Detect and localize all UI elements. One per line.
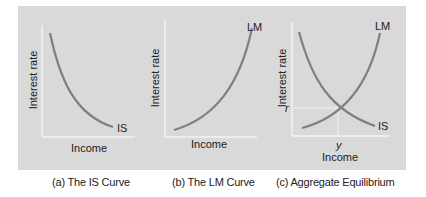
caption-c: (c) Aggregate Equilibrium bbox=[276, 176, 395, 188]
lm-curve bbox=[302, 33, 380, 128]
y-axis-label: Interest rate bbox=[27, 51, 39, 110]
x-axis-label: Income bbox=[71, 142, 107, 154]
x-axis-label: Income bbox=[191, 138, 227, 150]
islm-diagram: IS Income Interest rate LM Income Intere… bbox=[0, 0, 426, 197]
y-axis-label: Interest rate bbox=[149, 49, 161, 108]
caption-a: (a) The IS Curve bbox=[52, 176, 130, 188]
is-curve-label: IS bbox=[378, 120, 388, 132]
x-axis-label: Income bbox=[322, 151, 358, 163]
y-axis-label: Interest rate bbox=[276, 49, 288, 108]
panel-c-equilibrium: LM IS r y Income Interest rate bbox=[276, 20, 390, 163]
lm-curve-label: LM bbox=[375, 20, 390, 32]
is-curve bbox=[50, 33, 113, 127]
panel-b-lm-curve: LM Income Interest rate bbox=[149, 20, 262, 150]
y-label: y bbox=[335, 139, 343, 151]
panel-a-is-curve: IS Income Interest rate bbox=[27, 25, 135, 154]
caption-b: (b) The LM Curve bbox=[172, 176, 255, 188]
lm-curve-label: LM bbox=[247, 21, 262, 33]
lm-curve bbox=[174, 28, 252, 130]
is-curve-label: IS bbox=[117, 122, 127, 134]
